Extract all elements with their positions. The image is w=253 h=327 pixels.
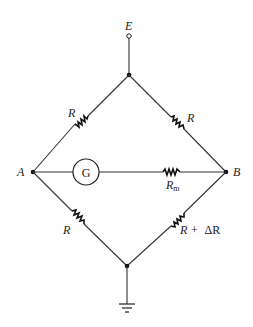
label-node-a: A — [16, 165, 25, 179]
label-delta-r: ΔR — [204, 223, 220, 237]
label-r-bottom-left: R — [62, 223, 71, 237]
resistor-top-left — [33, 75, 129, 172]
label-r-top-right: R — [186, 111, 195, 125]
resistor-bottom-left — [33, 172, 127, 266]
wheatstone-bridge-diagram: E R R A B G Rm R R + ΔR — [0, 0, 253, 327]
resistor-rm — [163, 169, 180, 175]
label-rm: Rm — [165, 178, 180, 193]
galvanometer: G — [73, 159, 99, 185]
label-node-b: B — [233, 165, 241, 179]
resistor-top-right — [129, 75, 226, 172]
label-r-bottom-right: R + ΔR — [179, 223, 220, 237]
supply-label: E — [124, 19, 133, 33]
supply-terminal — [127, 34, 131, 38]
label-r-top-left: R — [67, 106, 76, 120]
label-r-bottom-right-main: R + — [179, 223, 201, 237]
ground-icon — [119, 304, 135, 312]
galvanometer-label: G — [82, 166, 91, 180]
label-rm-subscript: m — [173, 184, 180, 193]
